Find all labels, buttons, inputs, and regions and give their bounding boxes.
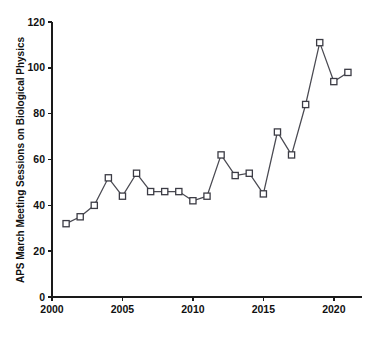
data-point-marker [105, 175, 111, 181]
y-tick-label: 40 [33, 199, 45, 211]
data-point-marker [119, 193, 125, 199]
x-tick-label: 2015 [252, 303, 276, 315]
data-point-marker [218, 152, 224, 158]
y-axis-title-label: APS March Meeting Sessions on Biological… [15, 36, 26, 283]
x-tick-label: 2020 [322, 303, 346, 315]
data-point-marker [162, 188, 168, 194]
y-tick-label: 80 [33, 107, 45, 119]
data-point-marker [91, 202, 97, 208]
data-point-marker [260, 191, 266, 197]
data-point-marker [176, 188, 182, 194]
data-point-marker [232, 172, 238, 178]
x-axis-ticks: 20002005201020152020 [40, 297, 345, 315]
data-point-marker [288, 152, 294, 158]
data-point-marker [204, 193, 210, 199]
data-point-marker [274, 129, 280, 135]
data-point-marker [77, 214, 83, 220]
data-point-marker [317, 40, 323, 46]
y-tick-label: 0 [39, 291, 45, 303]
y-tick-label: 120 [27, 16, 45, 28]
y-tick-label: 60 [33, 153, 45, 165]
data-point-marker [133, 170, 139, 176]
series-markers-biological-physics [63, 40, 351, 227]
line-chart: APS March Meeting Sessions on Biological… [0, 0, 375, 337]
data-point-marker [190, 198, 196, 204]
data-point-marker [345, 69, 351, 75]
data-point-marker [63, 221, 69, 227]
data-point-marker [303, 101, 309, 107]
chart-container: APS March Meeting Sessions on Biological… [0, 0, 375, 337]
data-point-marker [331, 78, 337, 84]
data-point-marker [148, 188, 154, 194]
x-tick-label: 2000 [40, 303, 64, 315]
y-tick-label: 20 [33, 245, 45, 257]
y-tick-label: 100 [27, 61, 45, 73]
y-axis-title: APS March Meeting Sessions on Biological… [15, 36, 26, 283]
x-tick-label: 2005 [111, 303, 135, 315]
data-point-marker [246, 170, 252, 176]
x-tick-label: 2010 [181, 303, 205, 315]
y-axis-ticks: 020406080100120 [27, 16, 52, 303]
